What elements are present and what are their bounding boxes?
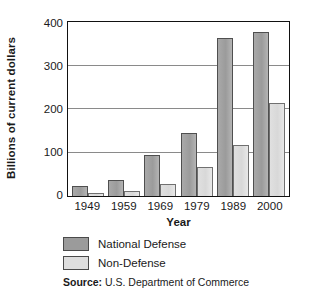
bar-group xyxy=(181,22,213,196)
bar-group xyxy=(253,22,285,196)
source-prefix: Source: xyxy=(63,276,102,288)
bar-national-defense-1989 xyxy=(217,38,233,196)
plot-area xyxy=(67,21,290,197)
bar-non-defense-1979 xyxy=(197,167,213,196)
x-axis-tick-label: 1949 xyxy=(70,200,104,212)
bar-national-defense-1949 xyxy=(72,186,88,196)
plot-inner xyxy=(68,22,289,196)
bar-non-defense-1969 xyxy=(160,184,176,196)
bar-group xyxy=(144,22,176,196)
legend-swatch-non-defense xyxy=(63,256,89,270)
bar-national-defense-1959 xyxy=(108,180,124,196)
x-axis-title: Year xyxy=(67,216,290,228)
x-axis-tick-label: 1989 xyxy=(216,200,250,212)
legend-label: Non-Defense xyxy=(98,257,166,269)
source-text: U.S. Department of Commerce xyxy=(105,276,249,288)
bar-group xyxy=(217,22,249,196)
bar-group xyxy=(72,22,104,196)
legend-swatch-national-defense xyxy=(63,237,89,251)
legend-label: National Defense xyxy=(98,238,186,250)
bar-non-defense-1989 xyxy=(233,145,249,196)
y-axis-tick-label: 300 xyxy=(19,60,63,72)
bar-non-defense-1949 xyxy=(88,193,104,196)
y-axis-tick-label: 200 xyxy=(19,103,63,115)
legend-item: National Defense xyxy=(63,234,303,253)
bar-group xyxy=(108,22,140,196)
y-axis-tick-label: 0 xyxy=(19,189,63,201)
x-axis-tick-label: 1959 xyxy=(107,200,141,212)
y-axis-tick-labels: 0100200300400 xyxy=(17,21,63,197)
x-axis-tick-label: 2000 xyxy=(253,200,287,212)
legend: National DefenseNon-Defense xyxy=(63,234,303,272)
bar-national-defense-2000 xyxy=(253,32,269,196)
legend-item: Non-Defense xyxy=(63,253,303,272)
source-note: Source: U.S. Department of Commerce xyxy=(63,276,249,288)
bar-national-defense-1969 xyxy=(144,155,160,196)
x-axis-tick-label: 1969 xyxy=(143,200,177,212)
x-axis-tick-label: 1979 xyxy=(180,200,214,212)
bar-national-defense-1979 xyxy=(181,133,197,197)
y-axis-tick-label: 100 xyxy=(19,146,63,158)
bar-non-defense-2000 xyxy=(269,103,285,196)
y-axis-title-text: Billions of current dollars xyxy=(5,37,17,179)
bar-groups xyxy=(68,22,289,196)
bar-non-defense-1959 xyxy=(124,191,140,196)
x-axis-tick-labels: 194919591969197919892000 xyxy=(67,200,290,216)
y-axis-tick-label: 400 xyxy=(19,17,63,29)
bar-chart-figure: Billions of current dollars 010020030040… xyxy=(0,0,327,300)
